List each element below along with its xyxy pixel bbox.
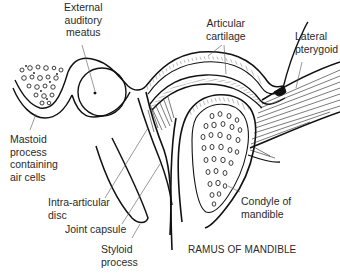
label-line: cartilage (206, 30, 246, 43)
label-line: External (64, 1, 103, 14)
tmj-diagram: External auditory meatus Articular carti… (0, 0, 340, 275)
joint-capsule-lines (138, 92, 176, 250)
label-line: auditory (64, 14, 103, 27)
mastoid-process-shape (13, 65, 72, 118)
label-line: Intra-articular (48, 196, 110, 209)
label-line: Lateral (295, 30, 338, 43)
label-line: air cells (10, 171, 58, 184)
label-line: disc (48, 209, 110, 222)
temporal-bone-outline (68, 52, 283, 117)
label-line: meatus (64, 26, 103, 39)
label-mastoid-process: Mastoid process containing air cells (10, 133, 58, 183)
label-line: Condyle of (241, 195, 291, 208)
label-line: mandible (241, 208, 291, 221)
label-line: process (101, 256, 138, 269)
label-ramus-of-mandible: RAMUS OF MANDIBLE (188, 244, 296, 257)
label-external-auditory-meatus: External auditory meatus (64, 1, 103, 39)
label-articular-cartilage: Articular cartilage (206, 17, 246, 42)
label-line: Mastoid (10, 133, 58, 146)
label-intra-articular-disc: Intra-articular disc (48, 196, 110, 221)
label-line: Articular (206, 17, 246, 30)
label-line: process (10, 146, 58, 159)
label-line: containing (10, 158, 58, 171)
label-lateral-pterygoid: Lateral pterygoid (295, 30, 338, 55)
label-line: pterygoid (295, 43, 338, 56)
label-condyle-of-mandible: Condyle of mandible (241, 195, 291, 220)
label-joint-capsule: Joint capsule (65, 223, 126, 236)
label-styloid-process: Styloid process (101, 243, 138, 268)
label-line: Styloid (101, 243, 138, 256)
